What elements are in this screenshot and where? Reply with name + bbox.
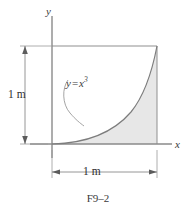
- dimension-label-horizontal: 1 m: [83, 166, 101, 178]
- dim-horizontal-arrow-left: [52, 169, 60, 174]
- figure-drawing: [0, 0, 196, 215]
- y-axis-label: y: [46, 6, 51, 17]
- equation-operator: =: [71, 77, 79, 89]
- figure-container: y x 1 m 1 m y=x3 F9–2: [0, 0, 196, 215]
- equation-exponent: 3: [84, 75, 88, 84]
- dimension-label-vertical: 1 m: [8, 89, 26, 101]
- dim-vertical-arrow-bottom: [22, 136, 28, 144]
- figure-caption: F9–2: [0, 192, 196, 204]
- dim-horizontal-arrow-right: [149, 169, 157, 174]
- dim-vertical-arrow-top: [22, 46, 28, 54]
- x-axis-label: x: [175, 139, 180, 150]
- curve-equation-label: y=x3: [66, 76, 88, 89]
